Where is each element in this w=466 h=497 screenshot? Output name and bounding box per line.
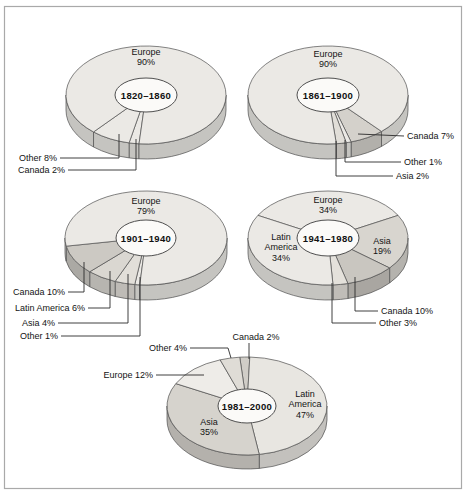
period-label: 1901–1940	[121, 233, 171, 244]
outside-slice-label: Other 4%	[149, 343, 187, 353]
slice-label: 34%	[272, 253, 290, 263]
pie-side-other	[135, 285, 140, 300]
slice-label: America	[288, 399, 321, 409]
figure: 1820–1860Europe90%Other 8%Canada 2%1861–…	[0, 0, 466, 497]
outside-slice-label: Other 8%	[19, 153, 57, 163]
outside-slice-label: Other 3%	[379, 318, 417, 328]
slice-label: 19%	[373, 246, 391, 256]
leader-line	[190, 348, 231, 358]
outside-slice-label: Canada 2%	[18, 165, 65, 175]
pie-chart-1941-1980: 1941–1980Europe34%Asia19%LatinAmerica34%…	[248, 191, 433, 328]
pie-side-canada	[129, 143, 139, 159]
pie-chart-1820-1860: 1820–1860Europe90%Other 8%Canada 2%	[18, 46, 226, 175]
slice-label: Europe	[131, 47, 160, 57]
slice-label: 47%	[296, 410, 314, 420]
outside-slice-label: Canada 10%	[13, 287, 65, 297]
outside-slice-label: Other 1%	[404, 157, 442, 167]
pie-side-other	[333, 284, 348, 300]
period-label: 1981–2000	[222, 401, 272, 412]
slice-label: Asia	[373, 236, 391, 246]
pie-side-other	[346, 142, 351, 158]
outside-slice-label: Canada 10%	[381, 306, 433, 316]
outside-slice-label: Europe 12%	[103, 370, 153, 380]
slice-label: America	[264, 242, 297, 252]
pie-chart-1901-1940: 1901–1940Europe79%Canada 10%Latin Americ…	[13, 191, 227, 341]
slice-label: Asia	[200, 417, 218, 427]
period-label: 1941–1980	[303, 233, 353, 244]
slice-label: 90%	[319, 59, 337, 69]
slice-label: 90%	[137, 57, 155, 67]
period-label: 1861–1900	[303, 90, 353, 101]
pie-chart-1861-1900: 1861–1900Europe90%Canada 7%Other 1%Asia …	[248, 46, 454, 181]
slice-label: 34%	[319, 205, 337, 215]
slice-label: Europe	[313, 195, 342, 205]
slice-label: 35%	[200, 427, 218, 437]
slice-label: 79%	[137, 206, 155, 216]
immigration-pie-charts-figure: 1820–1860Europe90%Other 8%Canada 2%1861–…	[0, 0, 466, 497]
outside-slice-label: Canada 2%	[232, 332, 279, 342]
slice-label: Europe	[131, 196, 160, 206]
period-label: 1820–1860	[121, 90, 171, 101]
outside-slice-label: Other 1%	[20, 331, 58, 341]
slice-label: Europe	[313, 49, 342, 59]
outside-slice-label: Latin America 6%	[15, 303, 85, 313]
outside-slice-label: Canada 7%	[407, 131, 454, 141]
slice-label: Latin	[295, 389, 315, 399]
outside-slice-label: Asia 2%	[396, 171, 429, 181]
slice-label: Latin	[271, 232, 291, 242]
outside-slice-label: Asia 4%	[22, 318, 55, 328]
pie-chart-1981-2000: 1981–2000LatinAmerica47%Asia35%Canada 2%…	[103, 332, 327, 469]
